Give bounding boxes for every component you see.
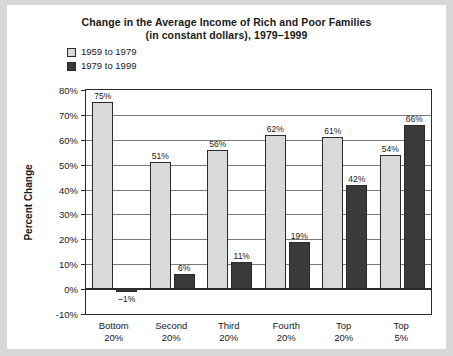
x-axis-category-line: Top (373, 320, 431, 332)
x-axis-labels: Bottom20%Second20%Third20%Fourth20%Top20… (85, 320, 432, 350)
bar-series-2 (116, 289, 137, 291)
legend-item-series-2: 1979 to 1999 (67, 60, 136, 72)
bar-value-label: 51% (143, 151, 178, 161)
bar-value-label: 6% (167, 263, 202, 273)
y-axis-tick-label: 10% (59, 259, 78, 270)
x-axis-category-line: 20% (315, 332, 373, 344)
bar-value-label: 61% (315, 126, 350, 136)
bar-value-label: 56% (200, 139, 235, 149)
x-axis-category-line: Second (143, 320, 201, 332)
x-axis-category-line: 20% (200, 332, 258, 344)
bar-value-label: 66% (397, 114, 432, 124)
x-axis-category-line: 20% (258, 332, 316, 344)
y-axis-tick-label: 30% (59, 209, 78, 220)
bar-series-2 (289, 242, 310, 289)
y-axis-tick-label: 50% (59, 159, 78, 170)
x-axis-category-label: Third20% (200, 320, 258, 344)
chart-title-block: Change in the Average Income of Rich and… (7, 16, 446, 42)
x-axis-category-line: Bottom (85, 320, 143, 332)
bar-series-2 (174, 274, 195, 289)
page-title: Change in the Average Income of Rich and… (7, 16, 446, 29)
x-axis-category-line: 5% (373, 332, 431, 344)
bar-value-label: 42% (339, 174, 374, 184)
y-axis-title-label: Percent Change (23, 164, 34, 240)
bar-series-1 (207, 150, 228, 289)
legend-label-series-1: 1959 to 1979 (81, 47, 136, 57)
legend-item-series-1: 1959 to 1979 (67, 46, 136, 58)
chart-legend: 1959 to 1979 1979 to 1999 (67, 46, 136, 74)
bar-value-label: 11% (224, 251, 259, 261)
bars-layer: 75%–1%51%6%56%11%62%19%61%42%54%66% (86, 90, 431, 314)
x-axis-category-line: Third (200, 320, 258, 332)
bar-series-2 (231, 262, 252, 289)
legend-swatch-icon-dark (67, 62, 76, 71)
plot-area: 80%70%60%50%40%30%20%10%0%-10% 75%–1%51%… (85, 89, 432, 315)
bar-value-label: –1% (109, 294, 144, 304)
legend-label-series-2: 1979 to 1999 (81, 61, 136, 71)
y-axis-tick-label: 60% (59, 134, 78, 145)
y-axis-tick-label: 80% (59, 85, 78, 96)
x-axis-category-line: Top (315, 320, 373, 332)
bar-series-2 (404, 125, 425, 289)
y-axis-tick-label: 40% (59, 184, 78, 195)
y-axis-tick-label: 20% (59, 234, 78, 245)
x-axis-category-label: Top5% (373, 320, 431, 344)
y-axis-tick (81, 314, 86, 315)
x-axis-category-label: Top20% (315, 320, 373, 344)
x-axis-category-line: 20% (143, 332, 201, 344)
bar-value-label: 75% (85, 91, 120, 101)
bar-series-1 (322, 137, 343, 289)
x-axis-category-label: Fourth20% (258, 320, 316, 344)
bar-value-label: 54% (373, 144, 408, 154)
bar-series-1 (92, 102, 113, 289)
y-axis-title: Percent Change (21, 89, 35, 315)
legend-swatch-icon-light (67, 48, 76, 57)
y-axis-tick-label: 70% (59, 109, 78, 120)
x-axis-category-line: Fourth (258, 320, 316, 332)
bar-series-1 (265, 135, 286, 289)
bar-value-label: 19% (282, 231, 317, 241)
y-axis-tick-label: 0% (64, 284, 78, 295)
bar-series-1 (380, 155, 401, 289)
chart-subtitle: (in constant dollars), 1979–1999 (7, 29, 446, 42)
x-axis-category-label: Second20% (143, 320, 201, 344)
chart-card: Change in the Average Income of Rich and… (7, 5, 446, 349)
y-axis-tick-label: -10% (56, 309, 78, 320)
x-axis-category-label: Bottom20% (85, 320, 143, 344)
bar-series-2 (346, 185, 367, 290)
bar-value-label: 62% (258, 124, 293, 134)
x-axis-category-line: 20% (85, 332, 143, 344)
